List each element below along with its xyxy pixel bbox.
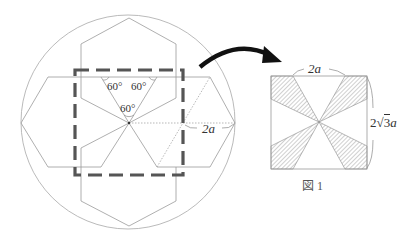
height-brace-bottom	[367, 140, 373, 168]
angle-label-center: 60°	[120, 103, 135, 114]
hatch-top-right	[319, 76, 367, 122]
figure-caption: 図 1	[302, 180, 323, 192]
width-brace-right	[329, 69, 345, 75]
hatch-bottom-left	[271, 122, 319, 169]
top-hexagon	[81, 18, 176, 98]
angle-label-right: 60°	[131, 81, 146, 92]
center-point	[128, 122, 130, 124]
width-brace-left	[293, 69, 304, 75]
height-brace-top	[367, 77, 373, 108]
angle-arc-right	[149, 77, 155, 80]
height-label-var: a	[390, 115, 397, 130]
hatch-top-left	[271, 76, 319, 122]
hatch-bottom-right	[319, 122, 367, 169]
arrow-shaft	[200, 49, 270, 67]
top-hexagon-inner	[81, 77, 176, 123]
radius-label: 2a	[202, 122, 215, 135]
radius-brace-left	[185, 125, 197, 128]
arrow-head-icon	[262, 46, 282, 63]
width-label: 2a	[308, 62, 321, 75]
angle-arc-center	[124, 115, 134, 117]
right-diagram	[271, 69, 373, 169]
bottom-hexagon-inner	[81, 123, 129, 148]
height-label: 2√3a	[370, 116, 397, 129]
bottom-hexagon	[81, 148, 176, 226]
transition-arrow	[200, 46, 282, 67]
figure-canvas	[0, 0, 417, 238]
angle-label-left: 60°	[107, 81, 122, 92]
sqrt-sign-icon: √	[377, 115, 384, 130]
